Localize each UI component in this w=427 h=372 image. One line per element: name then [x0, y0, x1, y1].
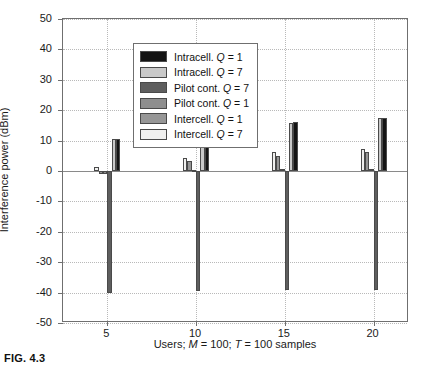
legend-label: Intracell. Q = 7 — [174, 66, 243, 78]
legend-label: Intercell. Q = 7 — [174, 128, 243, 140]
legend-label-value: = 1 — [225, 113, 243, 125]
y-axis-tick — [58, 110, 63, 111]
plot-area: Intracell. Q = 1Intracell. Q = 7Pilot co… — [62, 18, 408, 322]
legend-label-symbol: Q — [217, 128, 225, 140]
legend-label-symbol: Q — [223, 82, 231, 94]
y-axis-tick-label: 0 — [46, 164, 52, 176]
y-axis-tick-label: 50 — [40, 12, 52, 24]
legend-label-value: = 1 — [231, 97, 249, 109]
legend-swatch — [140, 113, 167, 124]
legend-label-symbol: Q — [217, 51, 225, 63]
y-axis-tick — [58, 49, 63, 50]
y-axis-tick — [58, 232, 63, 233]
y-axis-tick — [58, 19, 63, 20]
bar — [293, 122, 297, 171]
bar — [107, 171, 111, 293]
y-axis-tick-labels: 50403020100-10-20-30-40-50 — [0, 18, 58, 322]
legend-item[interactable]: Intracell. Q = 7 — [140, 65, 249, 81]
y-axis-tick-label: -10 — [36, 194, 52, 206]
legend-label-value: = 7 — [231, 82, 249, 94]
y-axis-tick-label: -40 — [36, 286, 52, 298]
figure-caption: FIG. 4.3 — [4, 352, 45, 364]
x-axis-title-m-value: = 100; — [198, 338, 235, 350]
legend-label-value: = 1 — [225, 51, 243, 63]
legend-label-symbol: Q — [217, 66, 225, 78]
y-axis-tick-label: -30 — [36, 255, 52, 267]
bar — [116, 139, 120, 171]
bar — [374, 171, 378, 290]
y-axis-tick-label: -20 — [36, 225, 52, 237]
y-axis-tick-label: 40 — [40, 42, 52, 54]
y-axis-tick — [58, 141, 63, 142]
legend-item[interactable]: Intracell. Q = 1 — [140, 49, 249, 65]
legend-label-main: Intercell. — [174, 113, 217, 125]
x-axis-title-t-value: = 100 samples — [241, 338, 316, 350]
legend-label-main: Intracell. — [174, 66, 217, 78]
y-axis-tick — [58, 201, 63, 202]
legend-label-main: Intercell. — [174, 128, 217, 140]
y-axis-tick-label: 20 — [40, 103, 52, 115]
chart-legend: Intracell. Q = 1Intracell. Q = 7Pilot co… — [133, 43, 258, 148]
legend-swatch — [140, 82, 167, 93]
legend-swatch — [140, 67, 167, 78]
y-axis-tick — [58, 80, 63, 81]
legend-item[interactable]: Intercell. Q = 1 — [140, 111, 249, 127]
bar — [196, 171, 200, 291]
legend-label-main: Pilot cont. — [174, 82, 223, 94]
legend-item[interactable]: Pilot cont. Q = 7 — [140, 80, 249, 96]
legend-label: Pilot cont. Q = 1 — [174, 97, 249, 109]
x-axis-title-m-symbol: M — [189, 338, 198, 350]
x-axis-title-pre: Users; — [154, 338, 189, 350]
legend-item[interactable]: Pilot cont. Q = 1 — [140, 96, 249, 112]
figure-4-3: Interference power (dBm) 50403020100-10-… — [0, 0, 427, 372]
legend-label: Intercell. Q = 1 — [174, 113, 243, 125]
y-axis-tick — [58, 262, 63, 263]
x-axis-title: Users; M = 100; T = 100 samples — [62, 338, 408, 350]
y-axis-tick — [58, 293, 63, 294]
legend-label-symbol: Q — [217, 113, 225, 125]
legend-swatch — [140, 51, 167, 62]
legend-label-value: = 7 — [225, 128, 243, 140]
legend-swatch — [140, 98, 167, 109]
legend-label: Intracell. Q = 1 — [174, 51, 243, 63]
legend-label-value: = 7 — [225, 66, 243, 78]
legend-swatch — [140, 129, 167, 140]
y-axis-tick-label: 30 — [40, 73, 52, 85]
legend-label-symbol: Q — [223, 97, 231, 109]
bar — [285, 171, 289, 290]
legend-item[interactable]: Intercell. Q = 7 — [140, 127, 249, 143]
legend-label-main: Pilot cont. — [174, 97, 223, 109]
y-axis-tick-label: -50 — [36, 316, 52, 328]
bar — [382, 118, 386, 171]
y-axis-tick-label: 10 — [40, 134, 52, 146]
y-axis-tick — [58, 171, 63, 172]
legend-label-main: Intracell. — [174, 51, 217, 63]
legend-label: Pilot cont. Q = 7 — [174, 82, 249, 94]
